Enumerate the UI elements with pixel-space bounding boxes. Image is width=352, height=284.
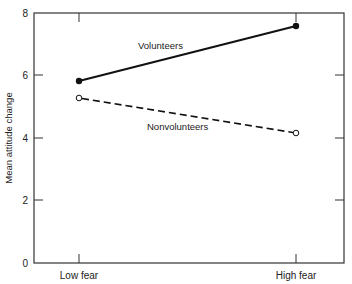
x-axis-ticks — [79, 13, 296, 263]
plot-frame — [34, 13, 344, 263]
x-tick-label-low-fear: Low fear — [60, 270, 99, 281]
volunteers-point-high-fear — [293, 23, 299, 29]
line-chart: 8 6 4 2 0 Mean attitude change Low fear … — [0, 0, 352, 284]
y-tick-label-6: 6 — [22, 70, 28, 81]
series-label-volunteers: Volunteers — [138, 40, 183, 51]
y-tick-label-2: 2 — [22, 195, 28, 206]
y-axis-ticks — [34, 75, 43, 200]
x-tick-label-high-fear: High fear — [276, 270, 317, 281]
nonvolunteers-point-low-fear — [76, 95, 82, 101]
series-label-nonvolunteers: Nonvolunteers — [147, 121, 209, 132]
y-axis-title: Mean attitude change — [3, 92, 14, 183]
volunteers-point-low-fear — [76, 78, 82, 84]
y-tick-label-4: 4 — [22, 133, 28, 144]
y-axis-ticks-right — [335, 75, 344, 200]
y-tick-label-0: 0 — [22, 258, 28, 269]
y-tick-label-8: 8 — [22, 8, 28, 19]
nonvolunteers-point-high-fear — [293, 130, 299, 136]
series-volunteers — [76, 23, 299, 84]
